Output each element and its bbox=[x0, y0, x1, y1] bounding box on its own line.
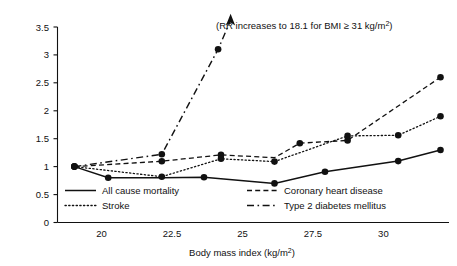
rr-annotation-tail: ) bbox=[389, 20, 392, 31]
data-point bbox=[344, 133, 351, 140]
stroke-line bbox=[74, 116, 440, 176]
data-point bbox=[322, 169, 329, 176]
y-axis-ticks bbox=[54, 27, 58, 223]
data-point bbox=[437, 147, 444, 154]
rr-annotation: (RR increases to 18.1 for BMI ≥ 31 kg/m2… bbox=[216, 20, 393, 31]
y-axis-tick-labels: 3.5 3 2.5 2 1.5 1 0.5 0 bbox=[36, 22, 49, 229]
data-point bbox=[218, 156, 225, 163]
legend-item-all-cause-mortality[interactable]: All cause mortality bbox=[65, 185, 179, 196]
data-point bbox=[271, 158, 278, 165]
legend-item-coronary-heart-disease[interactable]: Coronary heart disease bbox=[247, 185, 383, 196]
x-axis-title-main: Body mass index (kg/m bbox=[189, 247, 288, 258]
data-point bbox=[105, 175, 112, 182]
data-point bbox=[437, 113, 444, 120]
y-tick-label: 1 bbox=[44, 161, 49, 172]
all-cause-line bbox=[74, 150, 440, 183]
relative-risk-line-chart: 3.5 3 2.5 2 1.5 1 0.5 0 20 22.5 25 27.5 … bbox=[0, 0, 457, 266]
x-axis: 20 22.5 25 27.5 30 Body mass index (kg/m… bbox=[58, 223, 450, 259]
series-all-cause-mortality bbox=[71, 147, 444, 187]
data-point bbox=[159, 151, 166, 158]
y-tick-label: 3.5 bbox=[36, 22, 49, 33]
chd-line bbox=[74, 77, 440, 166]
x-tick-label: 22.5 bbox=[163, 228, 182, 239]
y-tick-label: 3 bbox=[44, 49, 49, 60]
data-point bbox=[437, 74, 444, 81]
series-coronary-heart-disease bbox=[71, 74, 444, 170]
x-tick-label: 27.5 bbox=[304, 228, 323, 239]
x-axis-title: Body mass index (kg/m2) bbox=[189, 247, 295, 258]
legend-label: Stroke bbox=[102, 200, 129, 211]
data-point bbox=[159, 173, 166, 180]
series-stroke bbox=[71, 113, 444, 180]
y-tick-label: 0.5 bbox=[36, 189, 49, 200]
x-tick-label: 30 bbox=[378, 228, 389, 239]
series-type-2-diabetes-mellitus bbox=[71, 14, 235, 170]
y-tick-label: 1.5 bbox=[36, 133, 49, 144]
data-point bbox=[395, 158, 402, 165]
data-point bbox=[271, 180, 278, 187]
diabetes-line bbox=[74, 20, 230, 166]
y-tick-label: 2 bbox=[44, 105, 49, 116]
legend-item-stroke[interactable]: Stroke bbox=[65, 200, 129, 211]
legend-label: Coronary heart disease bbox=[284, 185, 383, 196]
x-tick-label: 25 bbox=[237, 228, 248, 239]
legend-label: Type 2 diabetes mellitus bbox=[284, 200, 386, 211]
x-axis-title-tail: ) bbox=[292, 247, 295, 258]
chart-container: 3.5 3 2.5 2 1.5 1 0.5 0 20 22.5 25 27.5 … bbox=[0, 0, 457, 266]
data-point bbox=[71, 163, 78, 170]
data-point bbox=[215, 46, 222, 53]
rr-annotation-main: (RR increases to 18.1 for BMI ≥ 31 kg/m bbox=[216, 20, 386, 31]
data-point bbox=[395, 132, 402, 139]
data-point bbox=[297, 140, 304, 147]
y-tick-label: 0 bbox=[44, 217, 49, 228]
data-point bbox=[159, 158, 166, 165]
y-tick-label: 2.5 bbox=[36, 77, 49, 88]
legend: All cause mortality Stroke Coronary hear… bbox=[65, 185, 386, 211]
x-tick-label: 20 bbox=[96, 228, 107, 239]
legend-label: All cause mortality bbox=[102, 185, 179, 196]
legend-item-type-2-diabetes-mellitus[interactable]: Type 2 diabetes mellitus bbox=[247, 200, 386, 211]
data-point bbox=[201, 174, 208, 181]
y-axis: 3.5 3 2.5 2 1.5 1 0.5 0 bbox=[36, 22, 58, 229]
x-axis-tick-labels: 20 22.5 25 27.5 30 bbox=[96, 228, 388, 239]
